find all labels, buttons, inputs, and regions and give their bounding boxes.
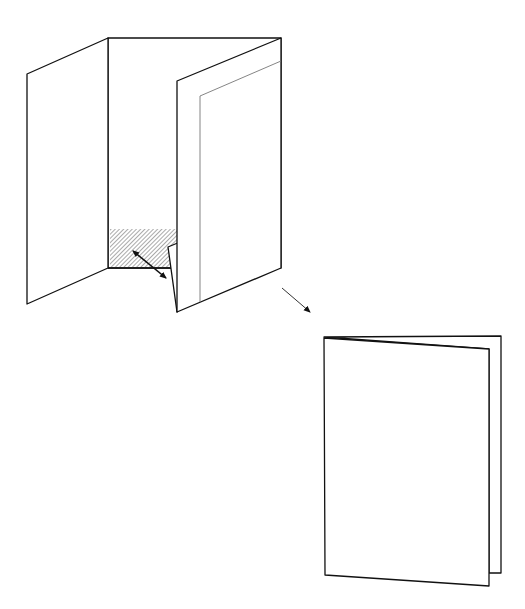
arrow-down-right-icon [282, 288, 310, 312]
folding-diagram [0, 0, 525, 609]
left-panel [27, 38, 108, 304]
hatched-pocket [110, 229, 177, 268]
front-page [324, 338, 489, 586]
step2-closed-booklet [324, 336, 501, 586]
step1-open-sheet [27, 38, 281, 312]
right-panel [177, 38, 281, 312]
